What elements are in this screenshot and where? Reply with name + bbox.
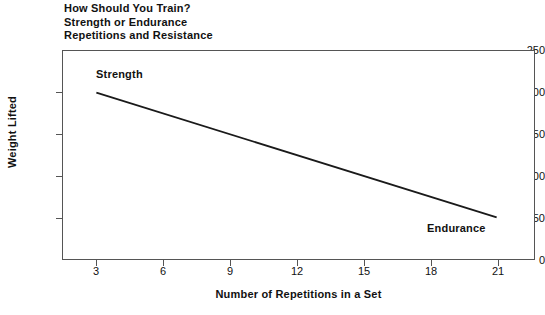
- chart-container: How Should You Train? Strength or Endura…: [0, 0, 545, 315]
- x-tick-label-6: 6: [143, 266, 183, 277]
- annotation-endurance: Endurance: [427, 222, 486, 234]
- data-line-weight-vs-reps: [96, 93, 496, 218]
- chart-title-line-3: Repetitions and Resistance: [64, 29, 213, 43]
- chart-title: How Should You Train? Strength or Endura…: [64, 2, 213, 43]
- x-axis-title: Number of Repetitions in a Set: [62, 288, 535, 300]
- x-tick-label-12: 12: [277, 266, 317, 277]
- x-tick-label-3: 3: [76, 266, 116, 277]
- y-axis-title: Weight Lifted: [6, 62, 18, 202]
- x-tick-label-9: 9: [210, 266, 250, 277]
- annotation-strength: Strength: [96, 68, 143, 80]
- chart-title-line-2: Strength or Endurance: [64, 16, 213, 30]
- x-tick-label-21: 21: [478, 266, 518, 277]
- chart-title-line-1: How Should You Train?: [64, 2, 213, 16]
- x-tick-label-18: 18: [411, 266, 451, 277]
- x-tick-label-15: 15: [344, 266, 384, 277]
